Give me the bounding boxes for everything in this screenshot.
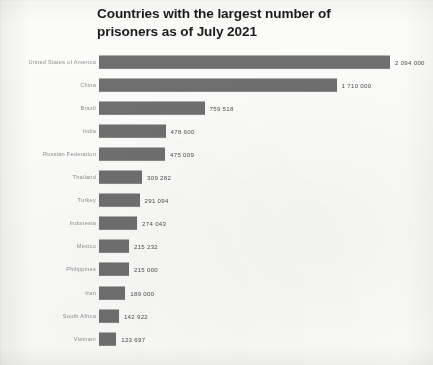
category-label: Mexico (3, 243, 99, 249)
bar (99, 78, 337, 91)
category-label: Russian Federation (3, 151, 99, 157)
category-label: United States of America (3, 59, 99, 65)
bar-value-label: 309 282 (147, 174, 171, 181)
bar-row: Brazil759 518 (0, 96, 433, 119)
category-label: South Africa (3, 313, 99, 319)
category-label: India (3, 128, 99, 134)
bar-row: Indonesia274 043 (0, 212, 433, 235)
bar-value-label: 142 922 (124, 312, 148, 319)
bar-value-label: 759 518 (210, 104, 234, 111)
bar (99, 309, 119, 322)
bar (99, 101, 205, 114)
bar-value-label: 274 043 (142, 220, 166, 227)
bar-value-label: 1 710 000 (342, 81, 372, 88)
bar-value-label: 189 000 (130, 289, 154, 296)
plot-area: United States of America2 094 000China1 … (0, 46, 433, 362)
bar-container: 1 710 000 (99, 78, 371, 91)
chart-title: Countries with the largest number of pri… (97, 5, 427, 41)
bar-container: 291 094 (99, 194, 169, 207)
bar (99, 55, 390, 68)
bar-row: India478 600 (0, 119, 433, 142)
bar-chart: Countries with the largest number of pri… (0, 0, 433, 365)
bar-value-label: 123 697 (121, 335, 145, 342)
bar-container: 215 000 (99, 263, 158, 276)
bar (99, 124, 166, 137)
bar (99, 240, 129, 253)
bar-row: United States of America2 094 000 (0, 50, 433, 73)
category-label: Vietnam (3, 336, 99, 342)
bar-value-label: 478 600 (171, 127, 195, 134)
bar-container: 478 600 (99, 124, 195, 137)
bar-container: 274 043 (99, 217, 166, 230)
bar-row: Turkey291 094 (0, 189, 433, 212)
bar-value-label: 215 232 (134, 243, 158, 250)
category-label: Turkey (3, 197, 99, 203)
bar-row: Iran189 000 (0, 281, 433, 304)
bar (99, 332, 116, 345)
bar-row: Russian Federation475 009 (0, 142, 433, 165)
bar-container: 142 922 (99, 309, 148, 322)
bar-row: Thailand309 282 (0, 166, 433, 189)
bar-container: 2 094 000 (99, 55, 425, 68)
bar-container: 759 518 (99, 101, 234, 114)
bar-value-label: 475 009 (170, 150, 194, 157)
bar-row: South Africa142 922 (0, 304, 433, 327)
bar-row: Philippines215 000 (0, 258, 433, 281)
bar-container: 215 232 (99, 240, 158, 253)
bar (99, 217, 137, 230)
category-label: Brazil (3, 105, 99, 111)
bar-row: Vietnam123 697 (0, 327, 433, 350)
bar-container: 123 697 (99, 332, 145, 345)
bar-container: 189 000 (99, 286, 154, 299)
bar-row: Mexico215 232 (0, 235, 433, 258)
bar (99, 194, 140, 207)
category-label: China (3, 82, 99, 88)
bar-container: 309 282 (99, 171, 171, 184)
bar (99, 286, 125, 299)
category-label: Philippines (3, 266, 99, 272)
bar-container: 475 009 (99, 147, 194, 160)
category-label: Iran (3, 290, 99, 296)
bar-value-label: 2 094 000 (395, 58, 425, 65)
bar-value-label: 291 094 (145, 197, 169, 204)
bar-value-label: 215 000 (134, 266, 158, 273)
bar (99, 263, 129, 276)
bar (99, 147, 165, 160)
bar-row: China1 710 000 (0, 73, 433, 96)
category-label: Indonesia (3, 220, 99, 226)
bar (99, 171, 142, 184)
category-label: Thailand (3, 174, 99, 180)
